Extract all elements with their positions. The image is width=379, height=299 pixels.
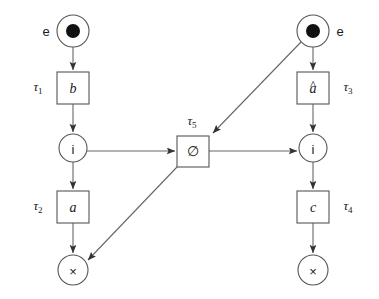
transition-a-hat-inner-label: a^	[310, 82, 317, 96]
transition-silent-inner-label: ∅	[187, 145, 199, 159]
place-i-left-label: i	[72, 142, 75, 155]
place-source-right-token-dot	[306, 24, 320, 38]
transition-a-inner-label: a	[70, 201, 77, 215]
place-source-right-outside-label: e	[336, 25, 343, 38]
transition-silent-tau-label: τ5	[187, 114, 196, 131]
arc-source-right-to-silent	[213, 42, 301, 133]
place-x-left-label: ×	[69, 264, 77, 277]
transition-a-tau-index: 2	[38, 205, 43, 215]
transition-a-hat-tau-label: τ3	[343, 80, 352, 97]
transition-b-tau-label: τ1	[33, 80, 42, 97]
transition-c-inner-label: c	[310, 201, 316, 215]
place-x-right-label: ×	[309, 264, 317, 277]
petri-net-diagram: ei×ei×bτ1aτ2a^τ3cτ4∅τ5	[0, 0, 379, 299]
place-i-right-label: i	[312, 142, 315, 155]
transition-b-tau-index: 1	[38, 86, 43, 96]
place-source-left-outside-label: e	[42, 25, 49, 38]
transition-silent-tau-index: 5	[192, 120, 197, 130]
transition-a-hat-tau-index: 3	[348, 86, 353, 96]
transition-b-inner-label: b	[70, 82, 77, 96]
place-source-left-token-dot	[66, 24, 80, 38]
transition-c-tau-label: τ4	[343, 199, 352, 216]
transition-a-tau-label: τ2	[33, 199, 42, 216]
arc-silent-to-x-left	[88, 167, 177, 260]
transition-a-hat-hat-accent: ^	[310, 78, 316, 91]
transition-c-tau-index: 4	[348, 205, 353, 215]
